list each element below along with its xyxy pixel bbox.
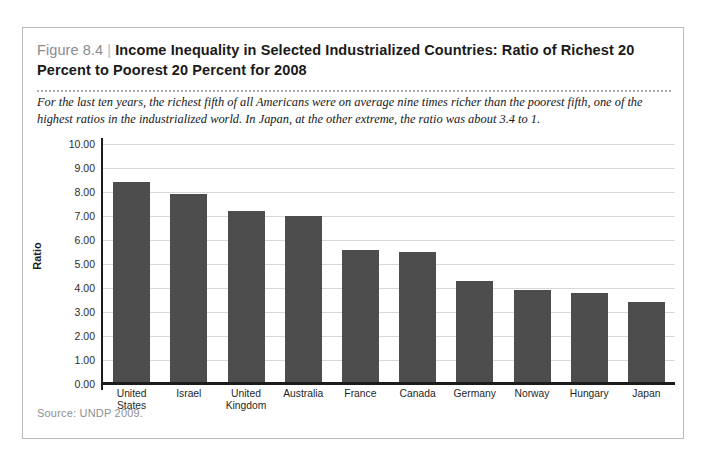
- figure-caption: For the last ten years, the richest fift…: [37, 94, 671, 128]
- bar: [456, 281, 493, 384]
- bar-chart: Ratio 10.009.008.007.006.005.004.003.002…: [37, 132, 671, 412]
- bar: [571, 293, 608, 384]
- y-axis-tick-label: 2.00: [49, 330, 95, 342]
- y-axis-tick-label: 4.00: [49, 282, 95, 294]
- bar: [170, 194, 207, 384]
- bar: [628, 302, 665, 384]
- x-axis-tick-label: Germany: [446, 388, 503, 400]
- y-axis-tick-label: 8.00: [49, 186, 95, 198]
- bar: [228, 211, 265, 384]
- figure-header: Figure 8.4|Income Inequality in Selected…: [37, 40, 671, 80]
- x-axis-line: [101, 382, 675, 385]
- y-axis-tick-label: 3.00: [49, 306, 95, 318]
- x-axis-tick-label: Japan: [618, 388, 675, 400]
- x-axis-tick-label: France: [332, 388, 389, 400]
- x-axis-tick-label: Israel: [160, 388, 217, 400]
- figure-title-line: Figure 8.4|Income Inequality in Selected…: [37, 40, 671, 80]
- bar: [399, 252, 436, 384]
- x-axis-labels: United StatesIsraelUnited KingdomAustral…: [103, 388, 675, 416]
- figure-title: Income Inequality in Selected Industrial…: [37, 42, 634, 78]
- y-axis-line: [101, 138, 103, 390]
- plot-area: [103, 144, 675, 384]
- figure-title-divider: |: [103, 42, 115, 58]
- header-dotted-rule: [37, 88, 671, 92]
- bar: [514, 290, 551, 384]
- bar-series: [103, 144, 675, 384]
- x-axis-tick-label: Australia: [275, 388, 332, 400]
- y-axis-tick-label: 1.00: [49, 354, 95, 366]
- x-axis-tick-label: Hungary: [561, 388, 618, 400]
- bar: [342, 250, 379, 384]
- x-axis-tick-label: Canada: [389, 388, 446, 400]
- bar: [285, 216, 322, 384]
- bar: [113, 182, 150, 384]
- y-axis-tick-label: 5.00: [49, 258, 95, 270]
- y-axis-tick-label: 0.00: [49, 378, 95, 390]
- figure-number: Figure 8.4: [37, 42, 103, 58]
- figure-source: Source: UNDP 2009.: [37, 407, 143, 419]
- y-axis-ticks: 10.009.008.007.006.005.004.003.002.001.0…: [43, 144, 95, 384]
- y-axis-tick-label: 9.00: [49, 162, 95, 174]
- y-axis-tick-label: 10.00: [49, 138, 95, 150]
- page-text-bleed: [0, 0, 706, 10]
- y-axis-tick-label: 6.00: [49, 234, 95, 246]
- figure-container: Figure 8.4|Income Inequality in Selected…: [22, 27, 684, 439]
- y-axis-title: Ratio: [31, 242, 43, 270]
- y-axis-tick-label: 7.00: [49, 210, 95, 222]
- x-axis-tick-label: United Kingdom: [217, 388, 274, 412]
- x-axis-tick-label: Norway: [503, 388, 560, 400]
